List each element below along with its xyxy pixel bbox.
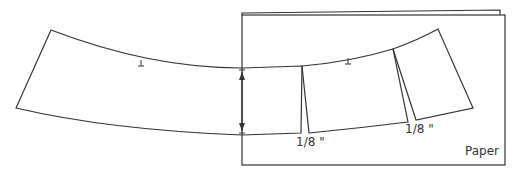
arrow-up-icon <box>239 72 245 80</box>
notch-marker-left <box>138 60 144 66</box>
paper-label: Paper <box>465 144 499 158</box>
pattern-diagram <box>0 0 516 181</box>
arrow-down-icon <box>239 123 245 131</box>
slit-label-2: 1/8 " <box>405 122 434 136</box>
paper-back-sheet <box>242 10 500 15</box>
pattern-piece-middle <box>302 49 408 133</box>
slit-label-1: 1/8 " <box>296 135 325 149</box>
pattern-piece-left <box>16 30 302 135</box>
